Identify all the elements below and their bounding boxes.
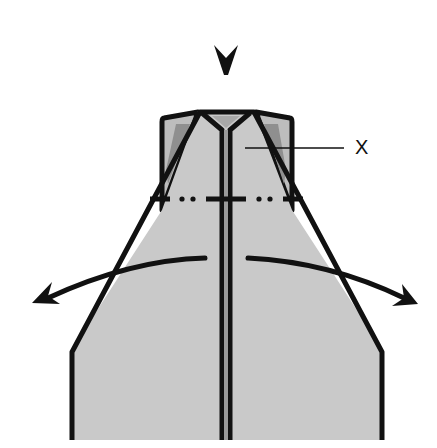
label-x: X xyxy=(355,136,368,159)
push-down-arrow-icon xyxy=(214,45,238,75)
center-crease-gap xyxy=(224,130,228,440)
origami-diagram xyxy=(0,0,437,448)
